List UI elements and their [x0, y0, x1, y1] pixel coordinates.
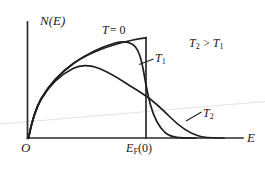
curve-label-t-one-symbol: T	[155, 51, 162, 65]
curve-label-t-two-symbol: T	[203, 106, 210, 120]
curve-label-t-zero: T = 0	[102, 24, 125, 36]
curve-label-t-two: T2	[203, 107, 214, 121]
curve-label-t-one-subscript: 1	[162, 57, 166, 66]
fermi-energy-argument: (0)	[138, 141, 152, 155]
curve-label-t-zero-symbol: T	[102, 23, 109, 37]
temperature-inequality-annotation: T2>T1	[189, 37, 224, 51]
inequality-right-subscript: 1	[219, 42, 223, 51]
curve-label-t-zero-value: = 0	[110, 23, 126, 37]
origin-label-text: O	[21, 140, 30, 155]
origin-label: O	[21, 141, 30, 154]
inequality-left-symbol: T	[189, 36, 196, 50]
y-axis-label: N(E)	[40, 14, 65, 27]
y-axis-label-text: N(E)	[40, 13, 65, 28]
curve-label-t-one: T1	[155, 52, 166, 66]
curve-label-t-two-subscript: 2	[210, 112, 214, 121]
inequality-operator: >	[200, 36, 213, 50]
fermi-energy-tick-label: EF(0)	[126, 142, 152, 156]
x-axis-label-text: E	[247, 130, 255, 145]
x-axis-label: E	[247, 131, 255, 144]
